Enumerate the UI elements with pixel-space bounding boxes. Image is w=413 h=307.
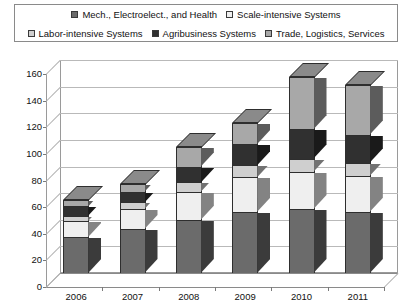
bar-column-2006[interactable] — [63, 200, 89, 273]
bar-segment[interactable] — [63, 206, 89, 215]
bar-segment[interactable] — [289, 77, 315, 129]
bar-segment[interactable] — [232, 144, 258, 165]
y-axis-tick-label: 40 — [31, 229, 42, 239]
y-tick-depth-connector — [46, 220, 61, 235]
y-axis-tick-label: 0 — [37, 282, 42, 292]
y-axis-tick-mark — [43, 127, 46, 128]
legend-label: Labor-intensive Systems — [39, 29, 143, 39]
y-axis-tick-label: 20 — [31, 255, 42, 265]
legend-item-scale-intensive-systems[interactable]: Scale-intensive Systems — [226, 10, 340, 20]
bar-column-2008[interactable] — [176, 147, 202, 273]
y-axis-tick-label: 140 — [26, 96, 42, 106]
bar-segment[interactable] — [289, 129, 315, 158]
bar-segment[interactable] — [120, 184, 146, 192]
y-axis-tick-mark — [43, 154, 46, 155]
bar-segment[interactable] — [345, 176, 371, 212]
gridline — [60, 60, 398, 61]
y-axis-tick-mark — [43, 287, 46, 288]
bar-segment[interactable] — [232, 212, 258, 273]
y-axis-tick-mark — [43, 234, 46, 235]
black-square-icon — [152, 30, 159, 37]
bar-segment[interactable] — [289, 159, 315, 172]
x-axis-line — [60, 273, 398, 274]
chart-legend: Mech., Electroelect., and Health Scale-i… — [14, 4, 398, 42]
y-tick-depth-connector — [46, 193, 61, 208]
y-tick-depth-connector — [46, 247, 61, 262]
y-tick-depth-connector — [46, 140, 61, 155]
legend-row-1: Mech., Electroelect., and Health Scale-i… — [15, 5, 397, 24]
y-axis-tick-label: 160 — [26, 69, 42, 79]
y-tick-depth-connector — [46, 87, 61, 102]
bar-segment[interactable] — [232, 123, 258, 144]
bar-column-2009[interactable] — [232, 123, 258, 273]
bar-segment[interactable] — [176, 167, 202, 183]
y-axis-tick-label: 60 — [31, 202, 42, 212]
y-axis-tick-label: 80 — [31, 176, 42, 186]
y-axis-tick-mark — [43, 260, 46, 261]
bar-segment[interactable] — [176, 147, 202, 167]
bar-segment[interactable] — [345, 135, 371, 163]
x-axis-tick-mark — [215, 287, 216, 291]
dark-gray-square-icon — [71, 11, 78, 18]
x-axis-tick-mark — [102, 287, 103, 291]
legend-label: Scale-intensive Systems — [237, 10, 340, 20]
bar-segment[interactable] — [176, 182, 202, 191]
bar-segment[interactable] — [345, 212, 371, 273]
bar-segment[interactable] — [289, 172, 315, 209]
gray-square-icon — [265, 30, 272, 37]
y-axis-tick-label: 120 — [26, 122, 42, 132]
legend-item-mech-electroelect-health[interactable]: Mech., Electroelect., and Health — [71, 10, 217, 20]
legend-label: Agribusiness Systems — [163, 29, 256, 39]
legend-item-trade-logistics-services[interactable]: Trade, Logistics, Services — [265, 29, 384, 39]
bar-segment[interactable] — [176, 192, 202, 220]
x-axis-tick-label: 2009 — [225, 292, 265, 302]
bar-segment[interactable] — [120, 229, 146, 273]
bar-segment[interactable] — [63, 237, 89, 273]
legend-label: Mech., Electroelect., and Health — [82, 10, 217, 20]
bar-column-2007[interactable] — [120, 184, 146, 273]
legend-row-2: Labor-intensive Systems Agribusiness Sys… — [15, 24, 397, 43]
bar-segment[interactable] — [120, 202, 146, 209]
bar-segment[interactable] — [289, 209, 315, 273]
x-axis-tick-label: 2010 — [282, 292, 322, 302]
x-axis-tick-mark — [328, 287, 329, 291]
y-tick-depth-connector — [46, 167, 61, 182]
legend-item-agribusiness-systems[interactable]: Agribusiness Systems — [152, 29, 256, 39]
x-axis-tick-mark — [384, 287, 385, 291]
y-axis-tick-label: 100 — [26, 149, 42, 159]
x-axis-tick-mark — [159, 287, 160, 291]
floor-depth-edge — [46, 273, 61, 288]
x-axis-tick-label: 2011 — [338, 292, 378, 302]
y-axis-tick-mark — [43, 101, 46, 102]
y-axis-tick-mark — [43, 207, 46, 208]
legend-item-labor-intensive-systems[interactable]: Labor-intensive Systems — [28, 29, 143, 39]
y-axis-tick-mark — [43, 181, 46, 182]
white-square-icon — [226, 11, 233, 18]
bar-segment[interactable] — [232, 177, 258, 212]
bar-segment[interactable] — [345, 163, 371, 176]
y-tick-depth-connector — [46, 113, 61, 128]
x-axis-tick-label: 2008 — [169, 292, 209, 302]
bar-segment[interactable] — [120, 192, 146, 203]
bar-column-2011[interactable] — [345, 85, 371, 273]
light-gray-square-icon — [28, 30, 35, 37]
floor-depth-edge — [384, 273, 399, 288]
chart-screenshot: Mech., Electroelect., and Health Scale-i… — [0, 0, 413, 307]
bar-segment[interactable] — [63, 200, 89, 207]
y-tick-depth-connector — [46, 60, 61, 75]
x-axis-tick-mark — [271, 287, 272, 291]
x-axis-tick-label: 2006 — [56, 292, 96, 302]
bar-segment[interactable] — [176, 220, 202, 273]
bar-segment[interactable] — [345, 85, 371, 134]
bar-segment[interactable] — [120, 209, 146, 229]
y-axis-tick-mark — [43, 74, 46, 75]
bar-segment[interactable] — [63, 221, 89, 237]
bar-segment[interactable] — [232, 165, 258, 177]
plot-area — [46, 60, 398, 287]
legend-label: Trade, Logistics, Services — [276, 29, 384, 39]
x-axis-tick-label: 2007 — [113, 292, 153, 302]
bar-column-2010[interactable] — [289, 77, 315, 273]
